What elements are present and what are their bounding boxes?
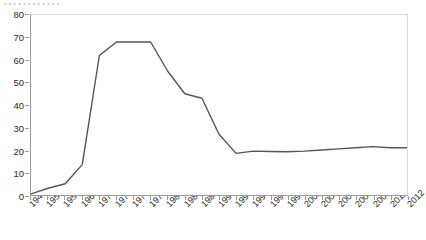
y-tick-mark	[25, 173, 29, 174]
y-tick-mark	[25, 14, 29, 15]
y-tick-mark	[25, 82, 29, 83]
y-tick-mark	[25, 196, 29, 197]
y-tick-mark	[25, 151, 29, 152]
y-tick-mark	[25, 105, 29, 106]
y-tick-label: 70	[0, 31, 24, 42]
y-tick-label: 60	[0, 54, 24, 65]
y-tick-label: 40	[0, 100, 24, 111]
y-tick-mark	[25, 128, 29, 129]
y-tick-mark	[25, 37, 29, 38]
y-tick-label: 30	[0, 122, 24, 133]
y-tick-label: 10	[0, 168, 24, 179]
y-tick-label: 80	[0, 9, 24, 20]
y-tick-label: 0	[0, 191, 24, 202]
y-tick-label: 20	[0, 145, 24, 156]
x-tick-label: 2012	[405, 188, 426, 209]
data-line-series	[31, 15, 407, 195]
series-line-1	[31, 42, 407, 194]
plot-area	[30, 14, 408, 196]
y-tick-label: 50	[0, 77, 24, 88]
y-tick-mark	[25, 60, 29, 61]
cropped-title-text: • • • • • • • • • • • •	[4, 0, 154, 6]
